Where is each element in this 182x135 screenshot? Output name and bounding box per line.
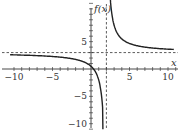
tick-labels: −10−55105−5−10 (5, 37, 174, 129)
curve-left-branch (10, 55, 103, 129)
x-axis-label: x (171, 57, 177, 68)
axis-ticks (14, 3, 176, 129)
function-plot: −10−55105−5−10 f(x) x (0, 0, 182, 135)
x-tick-label: −10 (5, 72, 24, 82)
x-tick-label: 10 (162, 72, 174, 82)
x-tick-label: −5 (46, 72, 60, 82)
y-axis-label: f(x) (93, 3, 111, 14)
y-tick-label: −5 (74, 91, 88, 101)
y-tick-label: −10 (68, 119, 87, 129)
x-tick-label: 5 (127, 72, 133, 82)
curve-right-branch (110, 0, 174, 49)
y-tick-label: 5 (81, 37, 87, 47)
